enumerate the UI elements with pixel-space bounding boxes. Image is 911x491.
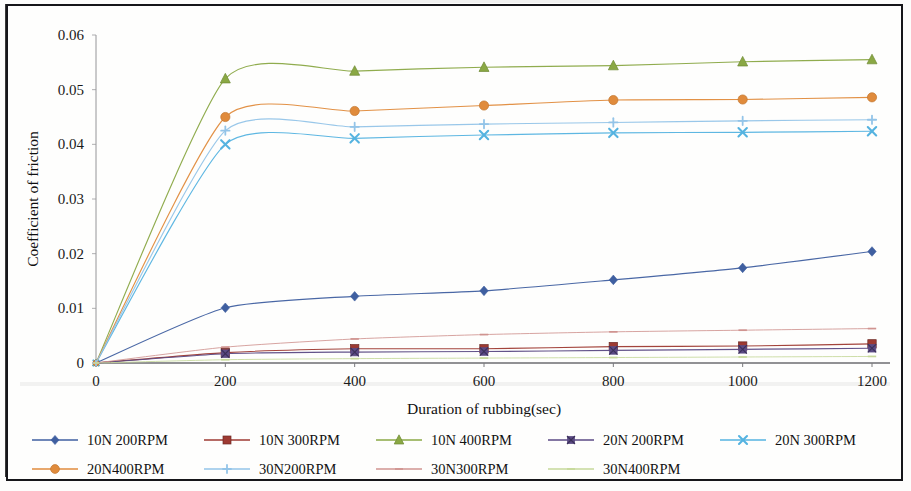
data-point-marker [738, 95, 747, 104]
chart-series [93, 356, 876, 363]
data-point-marker [350, 292, 358, 302]
x-tick-label: 200 [214, 373, 237, 389]
data-point-marker [223, 436, 231, 444]
data-point-marker [221, 112, 230, 121]
x-axis-title: Duration of rubbing(sec) [407, 400, 561, 418]
legend-item-label: 20N 200RPM [603, 432, 684, 448]
y-tick-label: 0.05 [58, 82, 84, 98]
data-point-marker [350, 106, 359, 115]
legend-item[interactable]: 20N 200RPM [548, 432, 684, 448]
series-line [96, 97, 872, 363]
y-tick-label: 0.04 [58, 136, 85, 152]
legend-item[interactable]: 30N300RPM [376, 461, 508, 477]
legend-item-label: 10N 200RPM [87, 432, 168, 448]
data-point-marker [51, 435, 59, 444]
x-tick-label: 0 [92, 373, 100, 389]
data-point-marker [479, 101, 488, 110]
series-layer [93, 54, 877, 366]
legend-item-label: 30N400RPM [603, 461, 680, 477]
x-tick-label: 400 [343, 373, 366, 389]
legend-item-label: 30N300RPM [431, 461, 508, 477]
axes-layer [92, 35, 890, 367]
series-line [96, 131, 872, 363]
legend-item[interactable]: 20N400RPM [32, 461, 164, 477]
y-tick-label: 0 [77, 355, 85, 371]
data-point-marker [867, 54, 877, 64]
x-tick-label: 1200 [857, 373, 887, 389]
y-tick-label: 0.02 [58, 246, 84, 262]
x-tick-label: 600 [473, 373, 496, 389]
data-point-marker [738, 263, 746, 273]
y-tick-label: 0.06 [58, 27, 85, 43]
chart-plot-area: 00.010.020.030.040.050.06020040060080010… [0, 0, 911, 491]
legend-item-label: 10N 300RPM [259, 432, 340, 448]
legend-item[interactable]: 10N 400RPM [376, 432, 512, 448]
line-chart-svg: 00.010.020.030.040.050.06020040060080010… [0, 0, 911, 491]
legend-item[interactable]: 10N 300RPM [204, 432, 340, 448]
legend-item[interactable]: 30N400RPM [548, 461, 680, 477]
x-tick-label: 800 [602, 373, 625, 389]
data-point-marker [868, 247, 876, 257]
data-point-marker [867, 93, 876, 102]
y-axis-title: Coefficient of friction [24, 131, 41, 267]
legend-item-label: 30N200RPM [259, 461, 336, 477]
legend-item-label: 10N 400RPM [431, 432, 512, 448]
data-point-marker [480, 286, 488, 296]
x-tick-label: 1000 [728, 373, 758, 389]
data-point-marker [221, 303, 229, 313]
data-point-marker [51, 465, 60, 474]
data-point-marker [609, 275, 617, 285]
legend-item[interactable]: 10N 200RPM [32, 432, 168, 448]
legend-item[interactable]: 30N200RPM [204, 461, 336, 477]
y-tick-label: 0.01 [58, 300, 84, 316]
chart-legend: 10N 200RPM10N 300RPM10N 400RPM20N 200RPM… [32, 432, 856, 477]
y-tick-label: 0.03 [58, 191, 84, 207]
legend-item-label: 20N 300RPM [775, 432, 856, 448]
figure-container: 00.010.020.030.040.050.06020040060080010… [0, 0, 911, 491]
legend-item-label: 20N400RPM [87, 461, 164, 477]
series-line [96, 119, 872, 363]
data-point-marker [609, 95, 618, 104]
legend-item[interactable]: 20N 300RPM [720, 432, 856, 448]
chart-series [93, 116, 876, 366]
